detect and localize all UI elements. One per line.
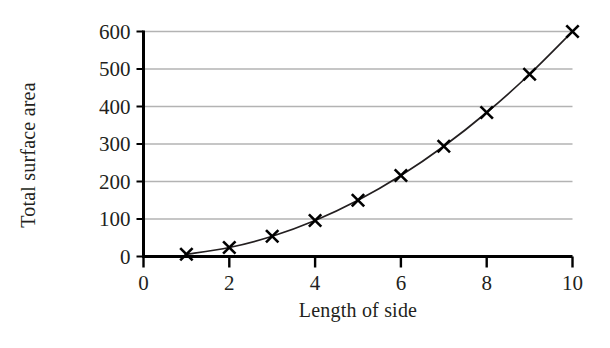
x-tick-label: 6 (396, 271, 407, 295)
data-point-marker (352, 194, 364, 206)
data-line (186, 32, 572, 255)
plot-area: 0100200300400500600 0246810 (0, 0, 610, 348)
x-tick-label: 0 (138, 271, 149, 295)
gridlines (144, 32, 573, 220)
x-tick-label: 2 (224, 271, 235, 295)
data-point-marker (266, 230, 278, 242)
y-tick-label: 0 (120, 245, 131, 269)
x-tick-label: 10 (562, 271, 583, 295)
x-tick-label: 8 (481, 271, 492, 295)
y-tick-label: 500 (99, 57, 131, 81)
data-point-marker (481, 106, 493, 118)
y-tick-label: 100 (99, 207, 131, 231)
y-tick-label: 200 (99, 170, 131, 194)
x-tick-label: 4 (310, 271, 321, 295)
data-markers (180, 25, 579, 260)
y-tick-label: 600 (99, 20, 131, 44)
x-axis-ticks (144, 257, 573, 268)
data-point-marker (523, 68, 535, 80)
x-tick-labels: 0246810 (138, 271, 583, 295)
y-tick-label: 300 (99, 132, 131, 156)
data-point-marker (438, 140, 450, 152)
y-tick-labels: 0100200300400500600 (99, 20, 131, 269)
chart-figure: Total surface area Length of side 010020… (0, 0, 610, 348)
series-curve (186, 32, 572, 255)
y-tick-label: 400 (99, 95, 131, 119)
data-point-marker (309, 214, 321, 226)
data-point-marker (395, 169, 407, 181)
